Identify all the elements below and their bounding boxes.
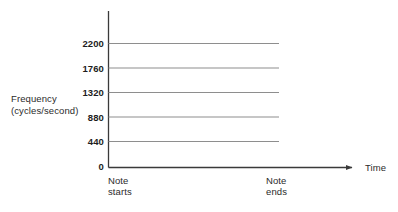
chart-canvas: 2200 1760 1320 880 440 0 Frequency (cycl… [0,0,398,212]
note-starts-label-line2: starts [108,186,132,198]
y-axis-title-line2: (cycles/second) [11,105,79,117]
ytick-label-1320: 1320 [62,87,104,99]
x-axis-title: Time [365,162,386,174]
note-starts-label-line1: Note [108,175,128,187]
note-ends-label-line1: Note [266,175,286,187]
ytick-label-2200: 2200 [62,38,104,50]
y-axis-title-line1: Frequency [11,93,57,105]
ytick-label-1760: 1760 [62,63,104,75]
note-ends-label-line2: ends [266,186,287,198]
ytick-label-440: 440 [62,136,104,148]
ytick-label-0: 0 [62,161,104,173]
